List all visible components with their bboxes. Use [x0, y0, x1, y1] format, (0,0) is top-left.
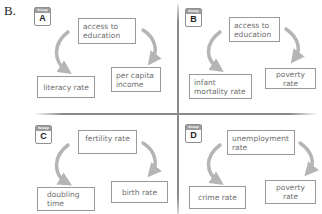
- arrow-right-icon: [300, 143, 312, 171]
- badge-letter: B: [186, 14, 201, 25]
- group-badge-a: Group A: [34, 7, 51, 26]
- badge-letter: A: [35, 13, 50, 24]
- horizontal-divider: [34, 113, 318, 115]
- arrow-right-icon: [286, 29, 298, 58]
- group-d-right-box: poverty rate: [265, 180, 316, 204]
- arrow-right-icon: [143, 143, 155, 172]
- group-badge-c: Group C: [35, 125, 52, 144]
- badge-letter: C: [36, 131, 51, 142]
- group-b-right-box: poverty rate: [265, 68, 316, 89]
- arrow-left-icon: [209, 145, 221, 181]
- group-b-left-box: infant mortality rate: [189, 74, 252, 99]
- arrow-right-icon: [143, 30, 155, 60]
- group-badge-d: Group D: [185, 124, 202, 143]
- group-a-right-box: per capita income: [111, 67, 161, 92]
- group-b-top-box: access to education: [229, 17, 280, 42]
- group-c-right-box: birth rate: [111, 181, 168, 203]
- group-badge-b: Group B: [185, 8, 202, 27]
- group-a-left-box: literacy rate: [37, 76, 95, 98]
- vertical-divider: [177, 4, 179, 214]
- arrow-left-icon: [57, 32, 69, 70]
- badge-letter: D: [186, 130, 201, 141]
- part-label: B.: [4, 3, 16, 19]
- arrow-left-icon: [209, 32, 221, 68]
- group-c-left-box: doubling time: [37, 187, 95, 211]
- group-c-top-box: fertility rate: [78, 130, 137, 154]
- group-d-left-box: crime rate: [189, 186, 246, 209]
- group-d-top-box: unemployment rate: [227, 130, 295, 155]
- group-a-top-box: access to education: [78, 18, 136, 44]
- arrow-left-icon: [57, 145, 69, 182]
